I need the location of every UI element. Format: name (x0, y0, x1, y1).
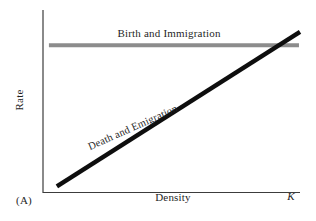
x-tick-label-k: K (287, 191, 295, 202)
series-label-birth-and-immigration: Birth and Immigration (117, 28, 220, 39)
x-axis-label: Density (155, 192, 191, 203)
figure-panel-a: Birth and Immigration Death and Emigrati… (0, 0, 316, 221)
series-line-death-and-emigration (57, 32, 300, 186)
panel-label: (A) (16, 195, 32, 206)
y-axis-label: Rate (14, 90, 25, 111)
